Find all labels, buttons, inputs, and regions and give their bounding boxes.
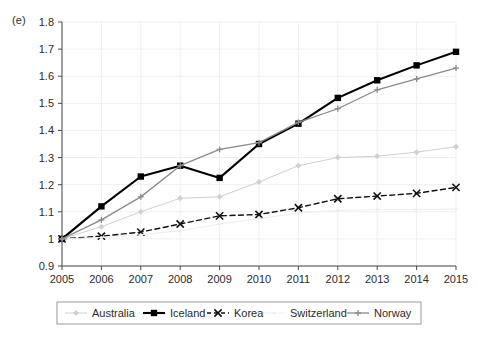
legend-label: Iceland bbox=[170, 307, 205, 319]
x-axis-ticks: 2005200620072008200920102011201220132014… bbox=[50, 266, 468, 285]
data-point-marker-iceland bbox=[98, 203, 104, 209]
data-point-marker-switzerland bbox=[297, 212, 300, 215]
y-tick-label: 1.7 bbox=[39, 43, 54, 55]
line-chart-svg: 0.911.11.21.31.41.51.61.71.8 20052006200… bbox=[0, 0, 478, 341]
legend-label: Australia bbox=[92, 307, 136, 319]
x-tick-label: 2009 bbox=[207, 273, 231, 285]
data-point-marker-iceland bbox=[138, 173, 144, 179]
data-point-marker-australia bbox=[295, 163, 301, 169]
y-tick-label: 1.4 bbox=[39, 124, 54, 136]
x-tick-label: 2005 bbox=[50, 273, 74, 285]
data-point-marker-iceland bbox=[216, 175, 222, 181]
data-point-marker-switzerland bbox=[100, 236, 103, 239]
data-point-marker-australia bbox=[453, 144, 459, 150]
data-point-marker-switzerland bbox=[415, 208, 418, 211]
data-point-marker-australia bbox=[177, 195, 183, 201]
x-tick-label: 2008 bbox=[168, 273, 192, 285]
data-point-marker-australia bbox=[98, 224, 104, 230]
data-point-marker-iceland bbox=[335, 95, 341, 101]
x-tick-label: 2012 bbox=[326, 273, 350, 285]
data-point-marker-norway bbox=[98, 217, 104, 223]
y-tick-label: 1.1 bbox=[39, 206, 54, 218]
data-point-marker-norway bbox=[453, 65, 459, 71]
data-point-marker-norway bbox=[217, 146, 223, 152]
y-tick-label: 1.2 bbox=[39, 179, 54, 191]
x-tick-label: 2015 bbox=[444, 273, 468, 285]
data-point-marker-switzerland bbox=[376, 208, 379, 211]
data-point-marker-australia bbox=[374, 153, 380, 159]
y-tick-label: 1 bbox=[48, 233, 54, 245]
y-tick-label: 1.8 bbox=[39, 16, 54, 28]
data-point-marker-legend bbox=[272, 311, 275, 314]
x-tick-label: 2010 bbox=[247, 273, 271, 285]
data-point-marker-australia bbox=[217, 194, 223, 200]
x-tick-label: 2006 bbox=[89, 273, 113, 285]
data-point-marker-switzerland bbox=[218, 222, 221, 225]
data-point-marker-switzerland bbox=[179, 229, 182, 232]
data-point-marker-iceland bbox=[413, 62, 419, 68]
data-point-marker-switzerland bbox=[257, 217, 260, 220]
data-point-marker-switzerland bbox=[139, 233, 142, 236]
data-point-marker-switzerland bbox=[336, 209, 339, 212]
x-tick-label: 2011 bbox=[287, 273, 311, 285]
legend-label: Korea bbox=[234, 307, 264, 319]
data-point-marker-iceland bbox=[374, 77, 380, 83]
data-point-marker-legend bbox=[151, 310, 157, 316]
chart-figure: (e) 0.911.11.21.31.41.51.61.71.8 2005200… bbox=[0, 0, 478, 341]
panel-label: (e) bbox=[12, 14, 26, 26]
legend-label: Switzerland bbox=[290, 307, 347, 319]
data-point-marker-australia bbox=[414, 149, 420, 155]
data-point-marker-australia bbox=[335, 155, 341, 161]
y-axis-ticks: 0.911.11.21.31.41.51.61.71.8 bbox=[39, 16, 62, 272]
x-tick-label: 2007 bbox=[129, 273, 153, 285]
data-point-marker-iceland bbox=[453, 49, 459, 55]
legend-label: Norway bbox=[374, 307, 412, 319]
data-point-marker-norway bbox=[414, 76, 420, 82]
data-point-marker-australia bbox=[138, 209, 144, 215]
data-point-marker-australia bbox=[256, 179, 262, 185]
y-tick-label: 1.3 bbox=[39, 152, 54, 164]
data-point-marker-switzerland bbox=[454, 207, 457, 210]
y-tick-label: 0.9 bbox=[39, 260, 54, 272]
data-point-marker-norway bbox=[335, 106, 341, 112]
x-tick-label: 2014 bbox=[404, 273, 428, 285]
chart-legend: AustraliaIcelandKoreaSwitzerlandNorway bbox=[57, 302, 421, 324]
data-point-marker-norway bbox=[374, 87, 380, 93]
y-tick-label: 1.6 bbox=[39, 70, 54, 82]
x-tick-label: 2013 bbox=[365, 273, 389, 285]
y-tick-label: 1.5 bbox=[39, 97, 54, 109]
